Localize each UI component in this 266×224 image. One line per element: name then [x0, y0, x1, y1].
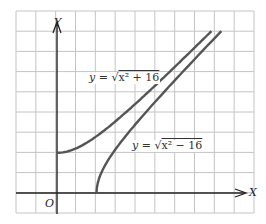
origin-label: O: [45, 197, 54, 210]
graph-canvas: [0, 0, 266, 224]
grid: [16, 11, 254, 213]
label-radicand: x² + 16: [118, 71, 159, 84]
curve-upper-label: y = √x² + 16: [88, 72, 160, 84]
curve-lower-label: y = √x² − 16: [131, 140, 203, 152]
label-radicand: x² − 16: [161, 139, 202, 152]
y-axis-label: Y: [54, 16, 61, 29]
label-lhs: y =: [132, 139, 154, 152]
x-axis-label: X: [249, 186, 257, 199]
label-lhs: y =: [89, 71, 111, 84]
